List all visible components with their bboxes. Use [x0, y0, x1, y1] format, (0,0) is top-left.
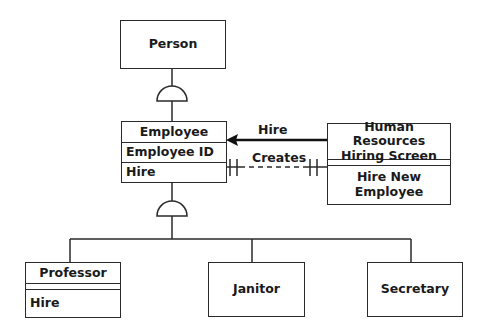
- diagram-canvas: Person Employee Employee ID Hire Human R…: [0, 0, 484, 334]
- class-name: Professor: [26, 263, 120, 283]
- class-operation: Hire: [26, 289, 120, 316]
- class-name-line2: Hiring Screen: [341, 149, 437, 163]
- class-name: Secretary: [368, 263, 462, 316]
- creates-association-label: Creates: [252, 150, 306, 165]
- class-operation: Hire: [122, 162, 226, 181]
- generalization-semicircle-icon: [157, 86, 187, 101]
- class-name: Janitor: [209, 263, 304, 316]
- class-name: Employee: [122, 122, 226, 142]
- hire-message-label: Hire: [258, 122, 287, 137]
- class-employee[interactable]: Employee Employee ID Hire: [121, 121, 227, 183]
- class-operation: Hire New Employee: [328, 165, 450, 203]
- class-operation-line1: Hire New: [357, 170, 421, 184]
- class-janitor[interactable]: Janitor: [208, 262, 305, 317]
- class-person[interactable]: Person: [120, 20, 226, 69]
- person-generalization-connector: [157, 68, 187, 121]
- class-attribute: Employee ID: [122, 142, 226, 162]
- generalization-semicircle-icon: [157, 201, 187, 216]
- class-operation-line2: Employee: [355, 185, 424, 199]
- class-name-line1: Human Resources: [328, 120, 450, 149]
- class-hr-hiring-screen[interactable]: Human Resources Hiring Screen Hire New E…: [327, 123, 451, 205]
- class-secretary[interactable]: Secretary: [367, 262, 463, 317]
- class-name: Human Resources Hiring Screen: [328, 124, 450, 159]
- class-name: Person: [121, 21, 225, 68]
- class-professor[interactable]: Professor Hire: [25, 262, 121, 318]
